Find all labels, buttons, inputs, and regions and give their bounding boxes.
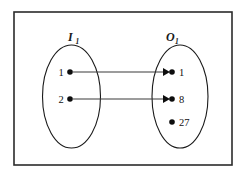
codomain-node-dot [169,119,175,125]
domain-set-label-subscript: 1 [76,37,80,46]
codomain-element-1: 1 [169,67,184,78]
diagram-frame [14,12,232,165]
codomain-element-label: 27 [179,117,190,128]
codomain-node-dot [169,96,175,102]
arrow-head-icon [163,68,170,76]
domain-set-group: I 1 1 2 [43,30,101,148]
codomain-set-group: O 1 1 8 27 [152,30,208,148]
codomain-set-label: O [166,30,175,44]
domain-node-dot [67,96,73,102]
domain-set-label: I [67,30,74,44]
mapping-diagram-container: I 1 1 2 O 1 1 8 [0,0,246,178]
codomain-element-27: 27 [169,117,189,128]
set-mapping-diagram: I 1 1 2 O 1 1 8 [0,0,246,178]
domain-element-1: 1 [58,67,72,78]
codomain-element-8: 8 [169,94,184,105]
arrow-1-to-1 [73,68,170,76]
domain-node-dot [67,69,73,75]
domain-set-ellipse [43,45,101,148]
arrow-2-to-8 [73,95,170,103]
codomain-set-label-subscript: 1 [175,37,179,46]
codomain-node-dot [169,69,175,75]
domain-element-2: 2 [58,94,72,105]
codomain-element-label: 8 [179,94,184,105]
domain-element-label: 1 [58,67,63,78]
arrow-head-icon [163,95,170,103]
domain-element-label: 2 [58,94,63,105]
codomain-element-label: 1 [179,67,184,78]
